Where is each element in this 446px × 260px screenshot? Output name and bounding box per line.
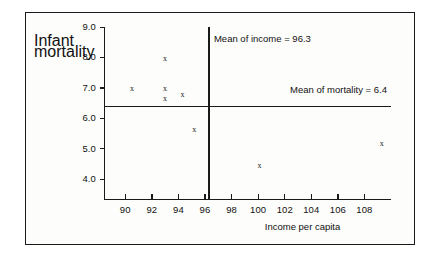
data-point: x bbox=[163, 95, 167, 103]
x-axis-tick-label: 108 bbox=[350, 204, 378, 215]
x-axis-tick-label: 90 bbox=[111, 204, 139, 215]
x-axis-tick-label: 98 bbox=[218, 204, 246, 215]
mean-of-income-label: Mean of income = 96.3 bbox=[214, 33, 311, 44]
mean-of-income-line bbox=[208, 27, 209, 199]
mean-of-mortality-label: Mean of mortality = 6.4 bbox=[26, 84, 387, 95]
y-axis-title-line-2: mortality bbox=[34, 46, 94, 57]
x-axis-tick bbox=[125, 194, 126, 199]
y-axis-tick bbox=[100, 27, 105, 28]
x-axis-tick bbox=[337, 194, 338, 199]
y-axis-tick-label: 5.0 bbox=[26, 143, 96, 154]
data-point: x bbox=[130, 85, 134, 93]
mean-of-mortality-line bbox=[104, 106, 391, 107]
data-point: x bbox=[192, 126, 196, 134]
y-axis-tick-label: 6.0 bbox=[26, 112, 96, 123]
x-axis-line bbox=[104, 199, 391, 200]
x-axis-tick bbox=[178, 194, 179, 199]
x-axis-tick-label: 96 bbox=[191, 204, 219, 215]
x-axis-tick-label: 106 bbox=[324, 204, 352, 215]
y-axis-tick bbox=[100, 57, 105, 58]
x-axis-tick bbox=[284, 194, 285, 199]
data-point: x bbox=[180, 91, 184, 99]
x-axis-tick-label: 102 bbox=[271, 204, 299, 215]
data-point: x bbox=[163, 55, 167, 63]
x-axis-tick bbox=[364, 194, 365, 199]
y-axis-tick-label: 4.0 bbox=[26, 173, 96, 184]
y-axis-line bbox=[104, 27, 105, 199]
y-axis-title: Infant mortality bbox=[34, 35, 94, 57]
data-point: x bbox=[380, 140, 384, 148]
y-axis-tick-label: 9.0 bbox=[26, 21, 96, 32]
x-axis-tick bbox=[311, 194, 312, 199]
x-axis-tick-label: 104 bbox=[297, 204, 325, 215]
data-point: x bbox=[257, 162, 261, 170]
x-axis-tick-label: 94 bbox=[164, 204, 192, 215]
x-axis-tick bbox=[204, 194, 205, 199]
x-axis-tick bbox=[151, 194, 152, 199]
x-axis-tick-label: 100 bbox=[244, 204, 272, 215]
x-axis-tick bbox=[231, 194, 232, 199]
y-axis-tick bbox=[100, 179, 105, 180]
x-axis-tick bbox=[258, 194, 259, 199]
x-axis-tick-label: 92 bbox=[138, 204, 166, 215]
y-axis-tick bbox=[100, 148, 105, 149]
x-axis-title: Income per capita bbox=[265, 221, 341, 232]
data-point: x bbox=[163, 85, 167, 93]
figure-panel: 4.05.06.07.08.09.09092949698100102104106… bbox=[25, 12, 415, 245]
y-axis-tick bbox=[100, 118, 105, 119]
